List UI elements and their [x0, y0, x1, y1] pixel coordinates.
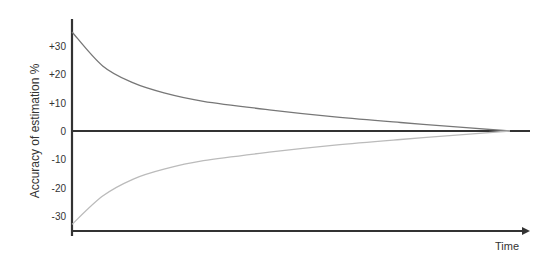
y-tick-label: 0 [60, 126, 66, 137]
upper-bound-curve [72, 32, 510, 131]
y-tick-label: -20 [52, 183, 67, 194]
y-tick-label: +20 [49, 69, 66, 80]
x-axis-arrow-icon [522, 227, 530, 235]
y-tick-label: +10 [49, 98, 66, 109]
lower-bound-curve [72, 131, 510, 224]
y-tick-label: -10 [52, 154, 67, 165]
y-tick-labels: +30+20+100-10-20-30 [49, 41, 66, 222]
y-tick-label: +30 [49, 41, 66, 52]
y-axis-label: Accuracy of estimation % [28, 63, 42, 198]
y-tick-label: -30 [52, 211, 67, 222]
x-axis-label: Time [495, 240, 519, 252]
convergence-chart: +30+20+100-10-20-30 Accuracy of estimati… [0, 0, 557, 272]
